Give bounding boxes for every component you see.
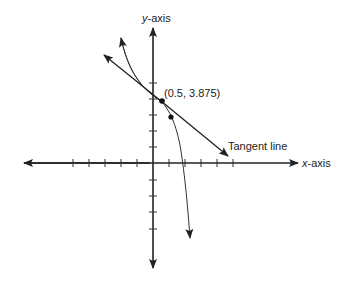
- x-axis: [24, 159, 298, 167]
- y-axis-label: y-axis: [141, 12, 171, 24]
- y-axis: [149, 28, 157, 268]
- point-label: (0.5, 3.875): [164, 87, 220, 99]
- tangent-point: [159, 98, 165, 104]
- secant-point: [168, 114, 173, 119]
- graph-canvas: (0.5, 3.875) Tangent line x-axis y-axis: [0, 0, 346, 288]
- tangent-label: Tangent line: [228, 140, 287, 152]
- tangent-line: [104, 55, 228, 156]
- x-axis-label: x-axis: [301, 157, 331, 169]
